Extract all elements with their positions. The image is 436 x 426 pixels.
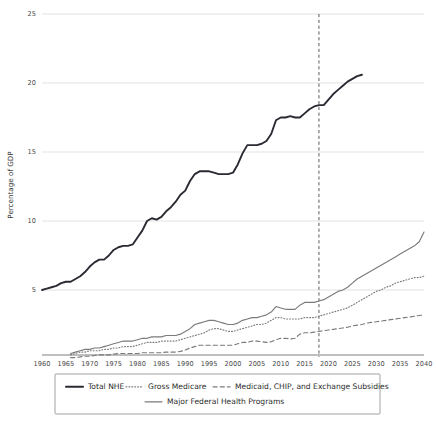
legend: Total NHEGross MedicareMedicaid, CHIP, a…	[66, 382, 389, 406]
y-tick-label: 25	[28, 10, 36, 18]
x-tick-label: 1990	[177, 360, 194, 368]
y-axis-title: Percentage of GDP	[6, 151, 15, 219]
gridlines	[42, 14, 424, 290]
x-tick-label: 2035	[392, 360, 409, 368]
x-tick-label: 1995	[201, 360, 218, 368]
x-tick-label: 1985	[153, 360, 170, 368]
x-tick-label: 1980	[129, 360, 146, 368]
x-tick-label: 2025	[344, 360, 361, 368]
x-tick-label: 2040	[416, 360, 433, 368]
legend-label[interactable]: Total NHE	[87, 382, 125, 391]
x-tick-label: 1970	[81, 360, 98, 368]
x-tick-label: 2010	[272, 360, 289, 368]
x-tick-label: 2020	[320, 360, 337, 368]
data-series-group	[42, 75, 424, 358]
series-line	[71, 315, 424, 358]
y-tick-label: 10	[28, 217, 36, 225]
y-tick-label: 15	[28, 148, 36, 156]
x-tick-label: 1960	[34, 360, 51, 368]
y-tick-label: 5	[32, 286, 36, 294]
line-chart: 510152025 196019651970197519801985199019…	[0, 0, 436, 426]
series-line	[71, 232, 424, 353]
x-tick-label: 2000	[225, 360, 242, 368]
series-line	[42, 75, 362, 290]
x-axis-tick-labels: 1960196519701975198019851990199520002005…	[34, 360, 433, 368]
legend-label[interactable]: Major Federal Health Programs	[167, 397, 284, 406]
y-axis-tick-labels: 510152025	[28, 10, 36, 294]
x-tick-label: 1965	[57, 360, 74, 368]
x-tick-label: 1975	[105, 360, 122, 368]
chart-container: 510152025 196019651970197519801985199019…	[0, 0, 436, 426]
y-tick-label: 20	[28, 79, 36, 87]
legend-border	[55, 374, 380, 414]
x-tick-label: 2030	[368, 360, 385, 368]
legend-label[interactable]: Gross Medicare	[148, 382, 207, 391]
legend-label[interactable]: Medicaid, CHIP, and Exchange Subsidies	[235, 382, 389, 391]
series-line	[71, 276, 424, 355]
x-tick-label: 2005	[248, 360, 265, 368]
x-tick-label: 2015	[296, 360, 313, 368]
